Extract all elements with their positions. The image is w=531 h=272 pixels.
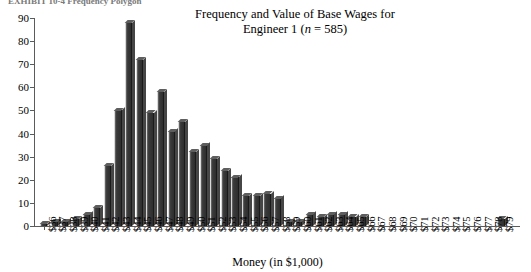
x-axis-tick-label: $46 [154,217,165,232]
x-axis-tick [161,227,162,230]
x-axis-tick-label: $60 [303,217,314,232]
bar-slot [125,18,136,226]
x-axis-tick [352,227,353,230]
bar-slot [465,18,476,226]
x-axis-tick [171,227,172,230]
x-axis-tick [490,227,491,230]
x-axis-tick [501,227,502,230]
bar-slot [423,18,434,226]
x-axis-tick [267,227,268,230]
bar-slot [200,18,211,226]
y-axis-tick-label: 30 [18,151,29,162]
bar-slot [359,18,370,226]
x-axis-tick [224,227,225,230]
bar-front-face [168,131,175,226]
x-axis-tick-label: $79 [505,217,516,232]
bar-side-face [132,20,135,226]
bar-slot [83,18,94,226]
bar-slot [444,18,455,226]
x-axis-tick [182,227,183,230]
bar-slot [285,18,296,226]
x-axis-tick-label: $54 [239,217,250,232]
x-axis-tick-label: $76 [473,217,484,232]
x-axis-tick [469,227,470,230]
x-axis-tick [97,227,98,230]
bar-slot [412,18,423,226]
plot-area: 0102030405060708090 [34,18,520,227]
y-axis-tick-label: 50 [18,105,29,116]
bar-side-face [154,110,157,226]
bar-side-face [207,143,210,226]
bar-slot [136,18,147,226]
bar-front-face [114,110,121,226]
bar [146,113,153,226]
bar-slot [210,18,221,226]
bar-slot [274,18,285,226]
bar-slot [370,18,381,226]
x-axis-tick-label: $57 [271,217,282,232]
bar [136,60,143,226]
bar [178,122,185,226]
x-axis-tick [256,227,257,230]
x-axis-tick [54,227,55,230]
x-axis-tick [299,227,300,230]
x-axis-tick [193,227,194,230]
x-axis-tick [288,227,289,230]
bar [157,92,164,226]
bar-slot [434,18,445,226]
bar-slot [317,18,328,226]
y-axis-tick-label: 20 [18,174,29,185]
bars-layer [34,18,520,226]
bar-slot [380,18,391,226]
bar-slot [242,18,253,226]
x-axis-tick [331,227,332,230]
x-axis-tick [150,227,151,230]
bar-side-face [175,129,178,226]
x-axis-tick [437,227,438,230]
x-axis-tick [363,227,364,230]
bar-slot [455,18,466,226]
bar-side-face [122,108,125,226]
bar-side-face [164,89,167,226]
bar-slot [487,18,498,226]
y-axis-tick-label: 80 [18,36,29,47]
bar-slot [476,18,487,226]
bar-slot [40,18,51,226]
bar-slot [338,18,349,226]
y-axis-tick-label: 0 [24,221,30,232]
x-axis-tick [458,227,459,230]
x-axis-tick [384,227,385,230]
bar [125,23,132,226]
bar [168,131,175,226]
x-axis-tick [395,227,396,230]
bar-slot [253,18,264,226]
x-axis-tick-label: $65 [356,217,367,232]
bar-slot [146,18,157,226]
bar-slot [306,18,317,226]
bar [200,145,207,226]
x-axis-tick [341,227,342,230]
bar-slot [104,18,115,226]
page-caption-strip: EXHIBIT 10-4 Frequency Polygon [8,0,308,7]
bar-side-face [185,119,188,226]
bar-slot [51,18,62,226]
page-caption-text: EXHIBIT 10-4 Frequency Polygon [8,0,308,6]
bar-slot [327,18,338,226]
bar-slot [295,18,306,226]
x-axis-tick [310,227,311,230]
x-axis-tick [44,227,45,230]
x-axis-tick [235,227,236,230]
bar-side-face [143,57,146,226]
bar-slot [72,18,83,226]
bar-slot [391,18,402,226]
x-axis-tick-label: $43 [122,217,133,232]
bar-slot [221,18,232,226]
y-axis-tick-label: 90 [18,13,29,24]
x-axis-tick [214,227,215,230]
y-axis-tick-label: 40 [18,128,29,139]
bar-side-face [217,156,220,226]
bar-slot [189,18,200,226]
bar [114,110,121,226]
x-axis-tick [320,227,321,230]
y-axis-tick-label: 60 [18,82,29,93]
